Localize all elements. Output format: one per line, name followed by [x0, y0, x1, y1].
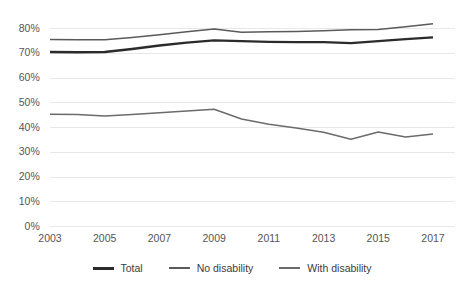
y-tick-label: 20%: [0, 170, 40, 182]
chart-legend: TotalNo disabilityWith disability: [0, 262, 464, 274]
x-tick-label: 2005: [82, 232, 128, 244]
y-tick-label: 40%: [0, 121, 40, 133]
y-tick-label: 10%: [0, 195, 40, 207]
y-tick-label: 0%: [0, 220, 40, 232]
series-line-with-disability: [50, 109, 433, 139]
plot-area: [0, 0, 464, 290]
legend-item-no-disability[interactable]: No disability: [169, 262, 254, 274]
legend-swatch-icon: [279, 267, 300, 269]
x-tick-label: 2013: [301, 232, 347, 244]
legend-item-total[interactable]: Total: [93, 262, 143, 274]
y-tick-label: 30%: [0, 145, 40, 157]
legend-swatch-icon: [93, 267, 114, 270]
x-tick-label: 2009: [191, 232, 237, 244]
gridlines: [50, 29, 455, 227]
y-tick-label: 80%: [0, 22, 40, 34]
x-tick-label: 2003: [27, 232, 73, 244]
legend-item-with-disability[interactable]: With disability: [279, 262, 371, 274]
series-line-no-disability: [50, 24, 433, 40]
y-tick-label: 50%: [0, 96, 40, 108]
x-tick-label: 2011: [246, 232, 292, 244]
line-chart: 0%10%20%30%40%50%60%70%80% 2003200520072…: [0, 0, 464, 290]
x-tick-label: 2015: [355, 232, 401, 244]
legend-label: Total: [121, 262, 143, 274]
series-lines: [50, 24, 433, 139]
legend-swatch-icon: [169, 267, 190, 269]
x-tick-label: 2017: [410, 232, 456, 244]
legend-label: No disability: [197, 262, 254, 274]
y-tick-label: 60%: [0, 71, 40, 83]
legend-label: With disability: [307, 262, 371, 274]
y-tick-label: 70%: [0, 46, 40, 58]
x-tick-label: 2007: [136, 232, 182, 244]
